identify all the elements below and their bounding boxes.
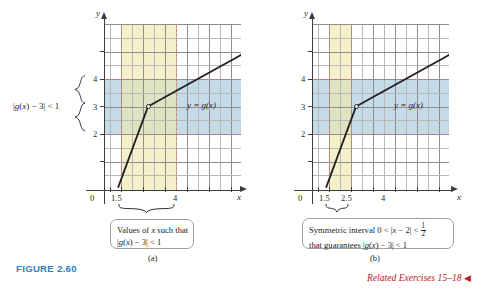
y-range-brace-a (74, 74, 86, 140)
curve-label-b: y = g(x) (394, 100, 423, 110)
x-tick (209, 187, 210, 192)
x-axis-label-b: x (457, 192, 461, 202)
x-tick (110, 187, 111, 192)
y-tick-label-3-a: 3 (93, 103, 97, 112)
y-tick (308, 134, 313, 135)
y-tick (100, 161, 105, 162)
x-tick-label-4-a: 4 (173, 194, 177, 203)
x-tick (121, 187, 122, 192)
x-tick (417, 187, 418, 192)
y-tick (100, 51, 105, 52)
plot-grid-b (312, 24, 449, 190)
y-tick (308, 51, 313, 52)
plot-grid-a (104, 24, 241, 190)
y-tick (308, 106, 313, 107)
y-tick-label-3-b: 3 (301, 103, 305, 112)
figure-page: x y 0 1.5 4 4 3 2 y = g(x) |g(x) − 3| < … (0, 0, 492, 289)
x-tick (165, 187, 166, 192)
y-axis-a (104, 18, 106, 204)
caption-line-2-b: that guarantees |g(x) − 3| < 1 (309, 239, 447, 251)
y-tick-label-2-b: 2 (301, 130, 305, 139)
kink-point-a (146, 104, 151, 109)
y-tick-label-2-a: 2 (93, 130, 97, 139)
left-triangle-icon: ◀ (464, 273, 471, 283)
caption-line-1-a: Values of x such that (117, 224, 187, 236)
y-tick-label-4-b: 4 (301, 75, 305, 84)
caption-line-2-a: |g(x) − 3| < 1 (117, 236, 187, 248)
fraction-denominator: 2 (421, 231, 427, 238)
panel-sublabel-a: (a) (148, 253, 157, 263)
caption-b-fraction: 12 (421, 223, 427, 239)
x-axis-label-a: x (237, 192, 241, 202)
related-exercises: Related Exercises 15–18 ◀ (367, 272, 471, 283)
y-tick (100, 134, 105, 135)
x-tick (231, 187, 232, 192)
curve-label-a: y = g(x) (187, 100, 216, 110)
caption-line-1-b: Symmetric interval 0 < |x − 2| < 12 (309, 223, 447, 239)
x-range-brace-a (118, 203, 177, 214)
panel-a: x y 0 1.5 4 4 3 2 y = g(x) |g(x) − 3| < … (0, 0, 246, 289)
x-tick (187, 187, 188, 192)
x-tick (329, 187, 330, 192)
y-range-inequality-a: |g(x) − 3| < 1 (13, 101, 59, 111)
y-axis-arrow-b (309, 12, 315, 19)
y-tick (308, 79, 313, 80)
caption-box-a: Values of x such that |g(x) − 3| < 1 (110, 219, 194, 249)
x-tick (395, 187, 396, 192)
y-tick (100, 106, 105, 107)
y-axis-label-a: y (96, 8, 100, 18)
x-tick-label-2_5-b: 2.5 (341, 194, 352, 203)
x-tick (351, 187, 352, 192)
y-tick-label-4-a: 4 (93, 75, 97, 84)
y-axis-label-b: y (304, 8, 308, 18)
x-tick (318, 187, 319, 192)
caption-b-text-part-1: Symmetric interval 0 < |x − 2| < (309, 225, 421, 235)
x-range-brace-b (325, 203, 351, 213)
x-tick (439, 187, 440, 192)
x-tick-label-1_5-a: 1.5 (111, 194, 122, 203)
y-range-inequality-text-a: |g(x) − 3| < 1 (13, 101, 59, 111)
x-tick (373, 187, 374, 192)
y-tick (100, 79, 105, 80)
curve-g-b (312, 24, 449, 190)
panel-sublabel-b: (b) (370, 253, 380, 263)
y-tick (308, 161, 313, 162)
y-axis-b (312, 18, 314, 204)
kink-point-b (354, 104, 359, 109)
figure-label: FIGURE 2.60 (16, 263, 77, 274)
x-tick-label-4-b: 4 (381, 194, 385, 203)
y-axis-arrow-a (101, 12, 107, 19)
panel-b: x y 0 1.5 2.5 4 4 3 2 y = g(x) Symmetric… (246, 0, 492, 289)
origin-label-b: 0 (298, 194, 302, 203)
curve-g-a (104, 24, 241, 190)
related-exercises-text: Related Exercises 15–18 (367, 272, 462, 283)
x-tick-label-1_5-b: 1.5 (319, 194, 330, 203)
origin-label-a: 0 (90, 194, 94, 203)
caption-box-b: Symmetric interval 0 < |x − 2| < 12 that… (302, 218, 454, 249)
x-tick (143, 187, 144, 192)
